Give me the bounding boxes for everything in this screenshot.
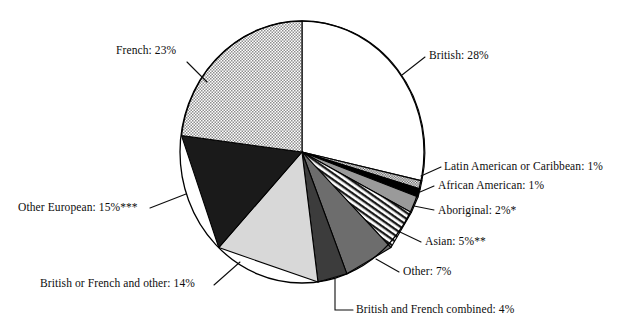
label-latin-american-or-caribbean: Latin American or Caribbean: 1%: [444, 161, 603, 173]
leader-line-british-and-french-combined: [335, 279, 353, 310]
label-other-european: Other European: 15%***: [18, 202, 138, 214]
label-asian: Asian: 5%**: [425, 236, 486, 248]
label-british: British: 28%: [429, 50, 489, 62]
leader-line-asian: [400, 232, 421, 242]
label-british-and-french-combined: British and French combined: 4%: [356, 304, 514, 316]
leader-line-other-european: [150, 194, 186, 208]
label-african-american: African American: 1%: [438, 180, 544, 192]
leader-line-african-american: [420, 186, 434, 192]
pie-chart-figure: British: 28% French: 23% Latin American …: [0, 0, 624, 335]
leader-line-french: [187, 62, 207, 82]
label-british-or-french-and-other: British or French and other: 14%: [40, 278, 195, 290]
label-other: Other: 7%: [403, 266, 451, 278]
leader-line-aboriginal: [414, 206, 434, 210]
leader-line-british-or-french-and-other: [214, 262, 240, 285]
slice-french[interactable]: [182, 21, 302, 152]
leader-line-british: [402, 57, 425, 75]
label-french: French: 23%: [116, 45, 176, 57]
label-aboriginal: Aboriginal: 2%*: [438, 205, 516, 217]
leader-line-other: [376, 259, 399, 272]
